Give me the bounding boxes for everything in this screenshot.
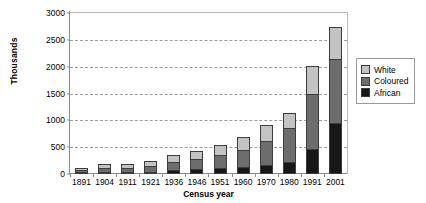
stacked-bar[interactable] [237, 137, 250, 174]
bar-series-group [70, 13, 347, 174]
bar-segment-coloured[interactable] [283, 128, 296, 162]
stacked-bar[interactable] [98, 164, 111, 174]
x-axis-tick-label: 1951 [208, 177, 231, 187]
x-axis-tick-label: 1911 [116, 177, 139, 187]
x-axis-title: Census year [70, 189, 347, 199]
x-axis-tick-labels: 1891190419111921193619461951196019701980… [70, 177, 347, 187]
bar-segment-coloured[interactable] [167, 162, 180, 170]
bar-segment-african[interactable] [260, 165, 273, 174]
bar-slot [301, 13, 324, 174]
bar-slot [116, 13, 139, 174]
bar-segment-african[interactable] [329, 123, 342, 174]
bar-segment-african[interactable] [144, 172, 157, 174]
bar-slot [324, 13, 347, 174]
bar-segment-white[interactable] [283, 113, 296, 127]
bar-segment-white[interactable] [260, 125, 273, 141]
stacked-bar[interactable] [329, 27, 342, 174]
bar-slot [93, 13, 116, 174]
bar-segment-african[interactable] [190, 169, 203, 174]
bar-slot [255, 13, 278, 174]
stacked-bar[interactable] [306, 66, 319, 174]
bar-segment-coloured[interactable] [329, 59, 342, 123]
bar-segment-coloured[interactable] [306, 94, 319, 149]
stacked-bar[interactable] [144, 161, 157, 174]
bar-segment-african[interactable] [98, 172, 111, 174]
x-axis-tick-label: 2001 [324, 177, 347, 187]
bar-segment-african[interactable] [237, 167, 250, 174]
x-axis-tick-label: 1991 [301, 177, 324, 187]
legend-label: African [374, 88, 400, 98]
bar-segment-white[interactable] [306, 66, 319, 94]
x-axis-tick-label: 1970 [255, 177, 278, 187]
bar-segment-coloured[interactable] [190, 159, 203, 169]
bar-slot [185, 13, 208, 174]
bar-segment-african[interactable] [121, 172, 134, 174]
bar-segment-african[interactable] [283, 162, 296, 174]
bar-segment-coloured[interactable] [214, 155, 227, 168]
chart-legend: WhiteColouredAfrican [356, 58, 415, 104]
stacked-bar[interactable] [121, 164, 134, 174]
x-axis-tick-label: 1904 [93, 177, 116, 187]
bar-slot [208, 13, 231, 174]
bar-segment-african[interactable] [214, 168, 227, 174]
bar-segment-coloured[interactable] [260, 141, 273, 165]
x-axis-tick-label: 1960 [232, 177, 255, 187]
legend-item[interactable]: White [361, 65, 409, 75]
x-axis-tick-label: 1946 [185, 177, 208, 187]
stacked-bar[interactable] [260, 125, 273, 174]
bar-segment-african[interactable] [75, 172, 88, 174]
bar-segment-african[interactable] [306, 149, 319, 174]
bar-segment-coloured[interactable] [237, 150, 250, 167]
bar-segment-white[interactable] [190, 151, 203, 159]
bar-segment-white[interactable] [167, 155, 180, 162]
bar-slot [278, 13, 301, 174]
bar-slot [162, 13, 185, 174]
bar-slot [70, 13, 93, 174]
bar-segment-white[interactable] [214, 145, 227, 155]
bar-segment-african[interactable] [167, 170, 180, 174]
chart-container: Thousands 300025002000150010005000 18911… [0, 0, 426, 203]
legend-swatch-icon [361, 88, 370, 97]
stacked-bar[interactable] [283, 113, 296, 174]
x-axis-tick-label: 1936 [162, 177, 185, 187]
bar-segment-white[interactable] [329, 27, 342, 58]
bar-slot [139, 13, 162, 174]
legend-label: Coloured [374, 76, 409, 86]
legend-label: White [374, 65, 396, 75]
stacked-bar[interactable] [190, 151, 203, 174]
bar-segment-white[interactable] [237, 137, 250, 150]
stacked-bar[interactable] [167, 155, 180, 174]
stacked-bar[interactable] [214, 145, 227, 174]
stacked-bar[interactable] [75, 168, 88, 174]
x-axis-tick-label: 1921 [139, 177, 162, 187]
legend-swatch-icon [361, 65, 370, 74]
legend-swatch-icon [361, 77, 370, 86]
legend-item[interactable]: Coloured [361, 76, 409, 86]
y-axis-title: Thousands [9, 21, 19, 101]
x-axis-tick-label: 1891 [70, 177, 93, 187]
bar-slot [232, 13, 255, 174]
legend-item[interactable]: African [361, 88, 409, 98]
x-axis-tick-label: 1980 [278, 177, 301, 187]
plot-area: 300025002000150010005000 [70, 12, 348, 174]
